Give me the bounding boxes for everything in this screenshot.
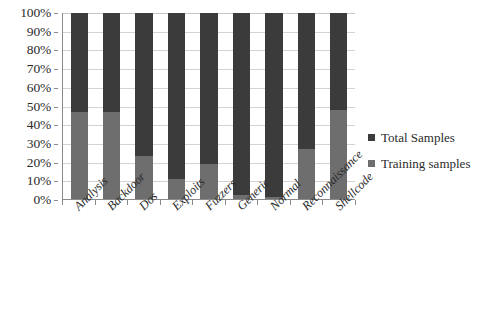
y-axis-tick-label: 80% <box>27 44 51 58</box>
y-axis-tick-label: 10% <box>27 175 51 189</box>
y-axis-tick-label: 100% <box>20 6 51 20</box>
bar-series-group <box>63 13 355 199</box>
y-axis-tick-label: 20% <box>27 156 51 170</box>
bar-segment-total-samples <box>135 13 152 156</box>
bar-column <box>162 13 192 199</box>
bar-segment-total-samples <box>168 13 185 179</box>
y-axis-tick-label: 0% <box>33 193 51 207</box>
bar-segment-total-samples <box>265 13 282 197</box>
stacked-bar-chart: 0%10%20%30%40%50%60%70%80%90%100% Analys… <box>0 0 504 309</box>
y-axis: 0%10%20%30%40%50%60%70%80%90%100% <box>0 13 58 200</box>
y-axis-tick-label: 90% <box>27 25 51 39</box>
legend-swatch-icon <box>368 134 375 141</box>
y-axis-tick-mark <box>54 163 58 164</box>
y-axis-tick-label: 50% <box>27 100 51 114</box>
y-axis-tick-mark <box>54 107 58 108</box>
y-axis-tick-mark <box>54 32 58 33</box>
y-axis-tick-label: 70% <box>27 62 51 76</box>
bar-stack <box>103 13 120 199</box>
y-axis-tick-mark <box>54 181 58 182</box>
bar-column <box>226 13 256 199</box>
legend-swatch-icon <box>368 160 375 167</box>
y-axis-tick-label: 60% <box>27 81 51 95</box>
legend-label: Total Samples <box>381 131 455 144</box>
bar-column <box>291 13 321 199</box>
y-axis-tick-mark <box>54 50 58 51</box>
bar-segment-training-samples <box>71 112 88 199</box>
bar-segment-total-samples <box>71 13 88 112</box>
bar-segment-total-samples <box>330 13 347 110</box>
plot-area <box>62 13 355 200</box>
bar-stack <box>233 13 250 199</box>
bar-column <box>194 13 224 199</box>
y-axis-tick-label: 30% <box>27 137 51 151</box>
bar-segment-total-samples <box>200 13 217 164</box>
x-axis-tick-mark <box>355 200 356 205</box>
x-axis-labels: AnalysisBackdoorDosExploitsFuzzersGeneri… <box>62 204 355 294</box>
bar-column <box>64 13 94 199</box>
y-axis-tick-mark <box>54 144 58 145</box>
y-axis-tick-mark <box>54 69 58 70</box>
y-axis-tick-label: 40% <box>27 118 51 132</box>
legend-item: Training samples <box>368 157 500 170</box>
legend-label: Training samples <box>381 157 470 170</box>
bar-segment-total-samples <box>233 13 250 195</box>
bar-column <box>259 13 289 199</box>
bar-stack <box>200 13 217 199</box>
bar-column <box>129 13 159 199</box>
bar-stack <box>71 13 88 199</box>
legend-item: Total Samples <box>368 131 500 144</box>
bar-stack <box>168 13 185 199</box>
chart-legend: Total SamplesTraining samples <box>368 131 500 183</box>
bar-segment-total-samples <box>298 13 315 149</box>
bar-segment-total-samples <box>103 13 120 112</box>
y-axis-tick-mark <box>54 13 58 14</box>
y-axis-tick-mark <box>54 200 58 201</box>
y-axis-tick-mark <box>54 125 58 126</box>
bar-column <box>97 13 127 199</box>
bar-stack <box>298 13 315 199</box>
y-axis-tick-mark <box>54 88 58 89</box>
bar-stack <box>265 13 282 199</box>
